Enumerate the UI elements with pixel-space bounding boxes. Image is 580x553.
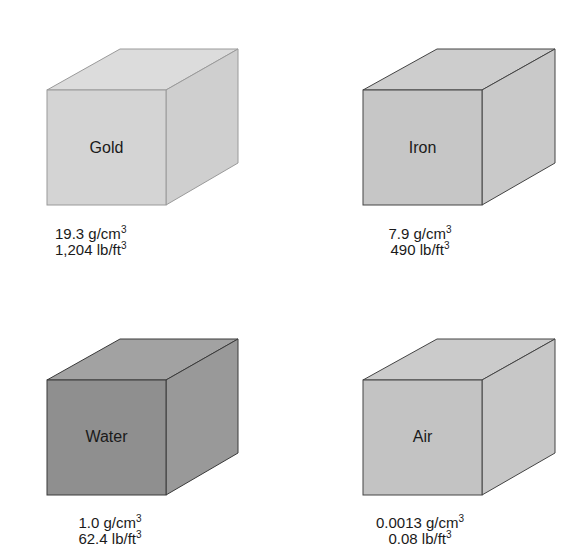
water-density-imperial: 62.4 lb/ft3 <box>40 531 180 549</box>
water-density-metric-exp: 3 <box>136 513 142 524</box>
iron-cube <box>363 49 555 205</box>
water-density-metric-value: 1.0 g/cm <box>78 514 136 531</box>
density-cubes-diagram <box>0 0 580 553</box>
air-density-metric-exp: 3 <box>459 513 465 524</box>
water-density-imperial-value: 62.4 lb/ft <box>78 530 136 547</box>
gold-density-imperial: 1,204 lb/ft3 <box>55 242 126 260</box>
gold-label: Gold <box>47 139 166 157</box>
water-density-imperial-exp: 3 <box>136 529 142 540</box>
gold-density-metric-value: 19.3 g/cm <box>55 225 121 242</box>
air-density-imperial-value: 0.08 lb/ft <box>388 530 446 547</box>
water-label: Water <box>47 428 166 446</box>
air-label: Air <box>363 428 482 446</box>
iron-density-imperial-exp: 3 <box>444 240 450 251</box>
water-cube <box>47 339 238 495</box>
iron-density-imperial: 490 lb/ft3 <box>340 242 500 260</box>
iron-density-imperial-value: 490 lb/ft <box>391 241 444 258</box>
air-cube <box>363 339 555 495</box>
air-density-imperial-exp: 3 <box>446 529 452 540</box>
iron-density-metric-exp: 3 <box>446 224 452 235</box>
gold-cube <box>47 49 238 205</box>
gold-density-imperial-exp: 3 <box>121 240 127 251</box>
gold-density-imperial-value: 1,204 lb/ft <box>55 241 121 258</box>
gold-density-metric-exp: 3 <box>121 224 127 235</box>
iron-density-metric-value: 7.9 g/cm <box>388 225 446 242</box>
air-density-imperial: 0.08 lb/ft3 <box>340 531 500 549</box>
iron-label: Iron <box>363 139 482 157</box>
